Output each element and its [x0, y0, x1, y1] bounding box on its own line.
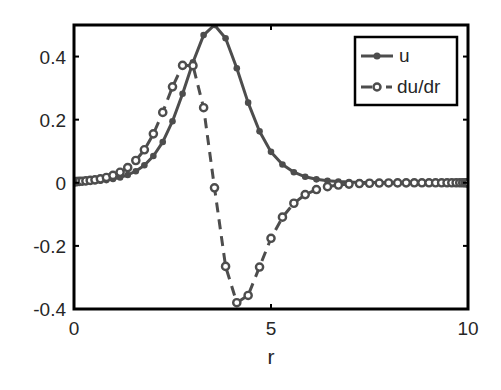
- legend-label-dudr: du/dr: [397, 76, 441, 97]
- u-marker-dot-icon: [200, 32, 207, 39]
- dudr-marker-circle-icon: [132, 157, 139, 164]
- dudr-marker-circle-icon: [179, 62, 186, 69]
- y-tick-label: 0.4: [40, 47, 67, 68]
- u-marker-dot-icon: [302, 173, 309, 180]
- dudr-marker-circle-icon: [394, 179, 401, 186]
- dudr-marker-circle-icon: [150, 130, 157, 137]
- u-marker-dot-icon: [222, 35, 229, 42]
- dudr-marker-circle-icon: [159, 109, 166, 116]
- chart: 0510-0.4-0.200.20.4 r u du/dr: [0, 0, 501, 390]
- u-marker-dot-icon: [141, 162, 148, 169]
- dudr-marker-circle-icon: [313, 186, 320, 193]
- u-marker-dot-icon: [313, 176, 320, 183]
- dudr-marker-circle-icon: [200, 104, 207, 111]
- dudr-marker-circle-icon: [385, 179, 392, 186]
- dudr-marker-circle-icon: [403, 179, 410, 186]
- u-marker-dot-icon: [169, 118, 176, 125]
- dudr-marker-circle-icon: [169, 83, 176, 90]
- dudr-marker-circle-icon: [233, 299, 240, 306]
- dudr-marker-circle-icon: [335, 181, 342, 188]
- dudr-marker-circle-icon: [411, 179, 418, 186]
- legend-marker-dot-icon: [374, 53, 381, 60]
- dudr-marker-circle-icon: [290, 200, 297, 207]
- u-marker-dot-icon: [179, 90, 186, 97]
- y-tick-label: 0: [55, 173, 66, 194]
- u-marker-dot-icon: [150, 153, 157, 160]
- u-marker-dot-icon: [233, 65, 240, 72]
- legend-label-u: u: [399, 45, 410, 66]
- dudr-marker-circle-icon: [222, 263, 229, 270]
- legend-marker-circle-icon: [374, 84, 381, 91]
- dudr-marker-circle-icon: [356, 180, 363, 187]
- dudr-marker-circle-icon: [376, 179, 383, 186]
- dudr-marker-circle-icon: [267, 235, 274, 242]
- dudr-marker-circle-icon: [256, 263, 263, 270]
- x-tick-label: 10: [457, 318, 478, 339]
- x-axis-label: r: [268, 345, 275, 368]
- u-marker-dot-icon: [291, 169, 298, 176]
- y-tick-label: -0.4: [33, 299, 66, 320]
- dudr-marker-circle-icon: [366, 180, 373, 187]
- u-marker-dot-icon: [279, 161, 286, 168]
- y-tick-label: 0.2: [40, 110, 66, 131]
- x-tick-label: 5: [266, 318, 277, 339]
- u-marker-dot-icon: [268, 149, 275, 156]
- dudr-marker-circle-icon: [324, 183, 331, 190]
- dudr-marker-circle-icon: [116, 169, 123, 176]
- dudr-marker-circle-icon: [345, 181, 352, 188]
- x-tick-label: 0: [69, 318, 80, 339]
- dudr-marker-circle-icon: [189, 62, 196, 69]
- dudr-marker-circle-icon: [279, 214, 286, 221]
- u-marker-dot-icon: [133, 168, 140, 175]
- dudr-marker-circle-icon: [141, 146, 148, 153]
- u-marker-dot-icon: [245, 99, 252, 106]
- dudr-marker-circle-icon: [245, 292, 252, 299]
- y-tick-label: -0.2: [33, 236, 66, 257]
- dudr-marker-circle-icon: [124, 164, 131, 171]
- dudr-marker-circle-icon: [302, 191, 309, 198]
- dudr-marker-circle-icon: [211, 184, 218, 191]
- u-marker-dot-icon: [256, 128, 263, 135]
- legend: u du/dr: [355, 37, 457, 105]
- u-marker-dot-icon: [124, 172, 131, 179]
- u-marker-dot-icon: [159, 139, 166, 146]
